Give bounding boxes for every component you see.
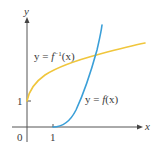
x-tick-label-1: 1 [50, 131, 56, 143]
y-tick-label-1: 1 [17, 95, 23, 107]
y-axis-arrow-icon [25, 17, 30, 23]
inverse-function-label: y = f−1(x) [34, 50, 75, 63]
function-label-arg: (x) [105, 93, 118, 106]
axes [12, 17, 143, 142]
inverse-label-arg: (x) [62, 50, 75, 63]
function-label-prefix: y = [85, 93, 102, 105]
function-inverse-plot: y x 0 1 1 y = f−1(x) y = f(x) [0, 0, 160, 165]
function-label: y = f(x) [85, 93, 118, 106]
x-axis-label: x [144, 120, 150, 132]
origin-label: 0 [17, 131, 23, 143]
x-axis-arrow-icon [137, 125, 143, 130]
inverse-label-prefix: y = [34, 50, 51, 62]
y-axis-label: y [23, 5, 29, 17]
function-curve [53, 25, 102, 127]
